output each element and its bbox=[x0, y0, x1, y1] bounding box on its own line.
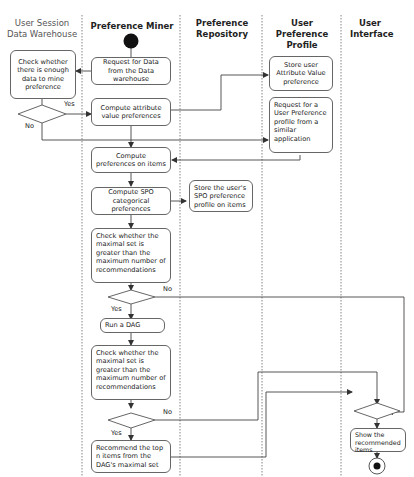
activity-check-maximal-set-1: Check whether the maximal set is greater… bbox=[91, 228, 171, 283]
activity-check-enough-data: Check whether there is enough data to mi… bbox=[10, 50, 76, 99]
decision-diamond-enough-data bbox=[18, 105, 66, 123]
activity-check-maximal-set-2: Check whether the maximal set is greater… bbox=[91, 345, 171, 400]
merge-diamond-ui bbox=[354, 403, 400, 419]
activity-recommend-top-n: Recommend the top n items from the DAG's… bbox=[91, 440, 171, 473]
edge-label-no-maximal-2: No bbox=[163, 408, 172, 416]
activity-run-dag: Run a DAG bbox=[100, 318, 165, 333]
activity-store-spo-profile: Store the user's SPO preference profile … bbox=[189, 180, 253, 212]
start-node bbox=[124, 34, 139, 49]
activity-show-recommended-items: Show the recommended items bbox=[350, 428, 406, 452]
activity-store-attribute-preference: Store user Attribute Value preference bbox=[269, 56, 333, 91]
decision-diamond-maximal-2 bbox=[108, 413, 155, 428]
decision-diamond-maximal-1 bbox=[108, 290, 155, 304]
activity-compute-spo-preferences: Compute SPO categorical preferences bbox=[91, 187, 171, 215]
edge-label-yes-enough-data: Yes bbox=[64, 100, 75, 108]
activity-compute-attribute-preferences: Compute attribute value preferences bbox=[91, 98, 171, 126]
edge-label-no-enough-data: No bbox=[25, 122, 34, 130]
activity-request-profile-similar-app: Request for a User Preference profile fr… bbox=[269, 97, 333, 153]
edge-label-yes-maximal-2: Yes bbox=[111, 429, 122, 437]
activity-request-data: Request for Data from the Data warehouse bbox=[91, 57, 171, 85]
edge-label-no-maximal-1: No bbox=[163, 285, 172, 293]
edge-label-yes-maximal-1: Yes bbox=[111, 305, 122, 313]
activity-compute-item-preferences: Compute preferences on items bbox=[91, 147, 171, 173]
